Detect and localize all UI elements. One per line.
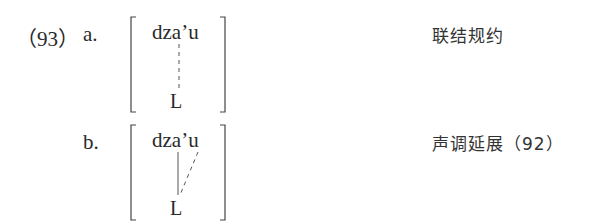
bracket-a-right bbox=[220, 17, 225, 112]
item-b-dashed-line bbox=[180, 152, 198, 195]
bracket-b-right bbox=[220, 125, 225, 220]
bracket-a-left bbox=[131, 17, 136, 112]
association-diagram bbox=[0, 0, 596, 224]
bracket-b-left bbox=[131, 125, 136, 220]
